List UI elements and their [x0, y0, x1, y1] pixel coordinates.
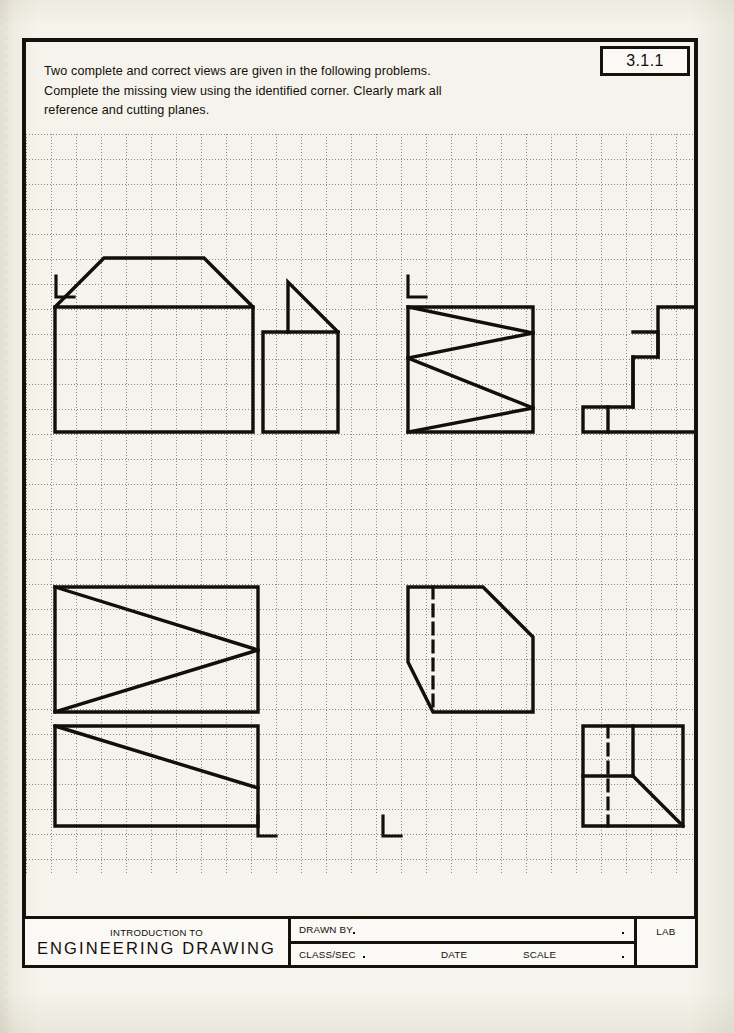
class-sec-dot: [363, 956, 365, 958]
scale-dot: [622, 956, 624, 958]
grid-work-area: [26, 134, 694, 874]
grid-line-vertical: [176, 134, 177, 874]
grid-line-vertical: [401, 134, 402, 874]
drawn-by-dot: [353, 932, 355, 934]
drawn-by-field[interactable]: DRAWN BY: [291, 919, 634, 944]
lab-cell: LAB: [637, 919, 695, 965]
grid-line-vertical: [376, 134, 377, 874]
scale-label[interactable]: SCALE: [523, 949, 556, 960]
grid-line-vertical: [351, 134, 352, 874]
grid-line-vertical: [476, 134, 477, 874]
grid-line-vertical: [326, 134, 327, 874]
title-block-row-2: CLASS/SEC DATE SCALE: [291, 944, 634, 966]
grid-line-vertical: [201, 134, 202, 874]
grid-line-vertical: [651, 134, 652, 874]
scan-edge: [6, 0, 7, 1033]
grid-line-vertical: [26, 134, 27, 874]
worksheet-page: Two complete and correct views are given…: [0, 0, 734, 1033]
grid-line-vertical: [301, 134, 302, 874]
grid-line-vertical: [601, 134, 602, 874]
title-block-fields: DRAWN BY CLASS/SEC DATE SCALE: [291, 919, 637, 965]
class-sec-label[interactable]: CLASS/SEC: [291, 949, 356, 960]
title-block: INTRODUCTION TO ENGINEERING DRAWING DRAW…: [22, 916, 698, 968]
grid-line-vertical: [251, 134, 252, 874]
grid-line-vertical: [276, 134, 277, 874]
drawn-by-label: DRAWN BY: [299, 924, 353, 935]
grid-line-vertical: [576, 134, 577, 874]
grid-line-vertical: [101, 134, 102, 874]
lab-label: LAB: [656, 926, 675, 937]
grid-line-vertical: [551, 134, 552, 874]
problem-number-box: 3.1.1: [600, 46, 690, 76]
course-title: ENGINEERING DRAWING: [37, 939, 276, 958]
grid-line-vertical: [76, 134, 77, 874]
grid-line-vertical: [151, 134, 152, 874]
instruction-text: Two complete and correct views are given…: [44, 62, 584, 121]
grid-line-vertical: [126, 134, 127, 874]
grid-line-vertical: [676, 134, 677, 874]
grid-line-vertical: [226, 134, 227, 874]
intro-label: INTRODUCTION TO: [110, 927, 203, 938]
grid-lines: [26, 134, 694, 874]
grid-line-vertical: [526, 134, 527, 874]
grid-line-vertical: [451, 134, 452, 874]
grid-line-vertical: [501, 134, 502, 874]
date-label[interactable]: DATE: [441, 949, 467, 960]
grid-line-vertical: [426, 134, 427, 874]
title-block-course-cell: INTRODUCTION TO ENGINEERING DRAWING: [25, 919, 291, 965]
problem-number-label: 3.1.1: [626, 52, 664, 70]
drawn-by-end-dot: [622, 932, 624, 934]
grid-line-vertical: [51, 134, 52, 874]
grid-line-vertical: [626, 134, 627, 874]
